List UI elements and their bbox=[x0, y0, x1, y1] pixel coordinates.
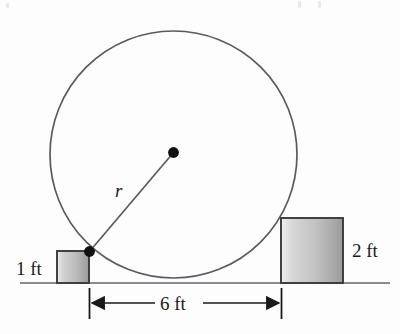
left-block bbox=[57, 251, 89, 283]
right-block bbox=[281, 218, 343, 283]
geometry-diagram: 1 ft 2 ft 6 ft r bbox=[0, 0, 400, 334]
span-dimension-label: 6 ft bbox=[160, 293, 187, 314]
page-artifacts bbox=[6, 1, 321, 8]
radius-line bbox=[90, 153, 174, 252]
figure-root: 1 ft 2 ft 6 ft r bbox=[0, 0, 400, 334]
circle-center-dot bbox=[168, 147, 179, 158]
left-block-height-label: 1 ft bbox=[16, 258, 43, 279]
tangent-point-dot bbox=[84, 246, 95, 257]
radius-label: r bbox=[115, 180, 123, 201]
right-block-height-label: 2 ft bbox=[352, 240, 379, 261]
